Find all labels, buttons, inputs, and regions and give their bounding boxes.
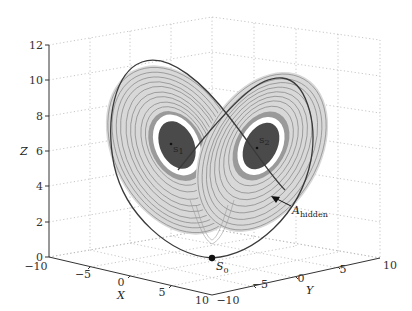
x-axis-label: X	[116, 289, 126, 302]
svg-text:5: 5	[340, 263, 347, 276]
y-axis-label: Y	[306, 284, 315, 297]
svg-text:−10: −10	[24, 260, 47, 273]
svg-text:6: 6	[36, 145, 43, 158]
svg-text:4: 4	[36, 180, 43, 193]
svg-text:10: 10	[29, 74, 43, 87]
s0-label: S0	[216, 260, 229, 275]
svg-text:−5: −5	[75, 268, 91, 281]
svg-text:−10: −10	[216, 294, 239, 307]
svg-text:−5: −5	[252, 278, 268, 291]
s1-point-marker	[170, 143, 173, 146]
z-axis-label: Z	[19, 145, 28, 158]
svg-text:12: 12	[29, 39, 43, 52]
y-tick-labels: −10 −5 0 5 10	[216, 259, 397, 307]
x-axis	[49, 257, 212, 295]
svg-text:8: 8	[36, 110, 43, 123]
svg-text:2: 2	[36, 216, 43, 229]
svg-text:0: 0	[118, 276, 125, 289]
s0-point-marker	[209, 255, 215, 261]
lorenz-3d-plot: S0 S1 S2 Ahidden	[0, 0, 412, 311]
s2-point-marker	[256, 147, 259, 150]
svg-text:10: 10	[195, 294, 209, 307]
svg-text:Ahidden: Ahidden	[291, 204, 328, 219]
svg-text:5: 5	[159, 286, 166, 299]
svg-text:10: 10	[383, 259, 397, 272]
y-axis	[212, 258, 380, 295]
z-tick-labels: 12 10 8 6 4 2 0	[29, 39, 43, 264]
svg-text:0: 0	[298, 272, 305, 285]
